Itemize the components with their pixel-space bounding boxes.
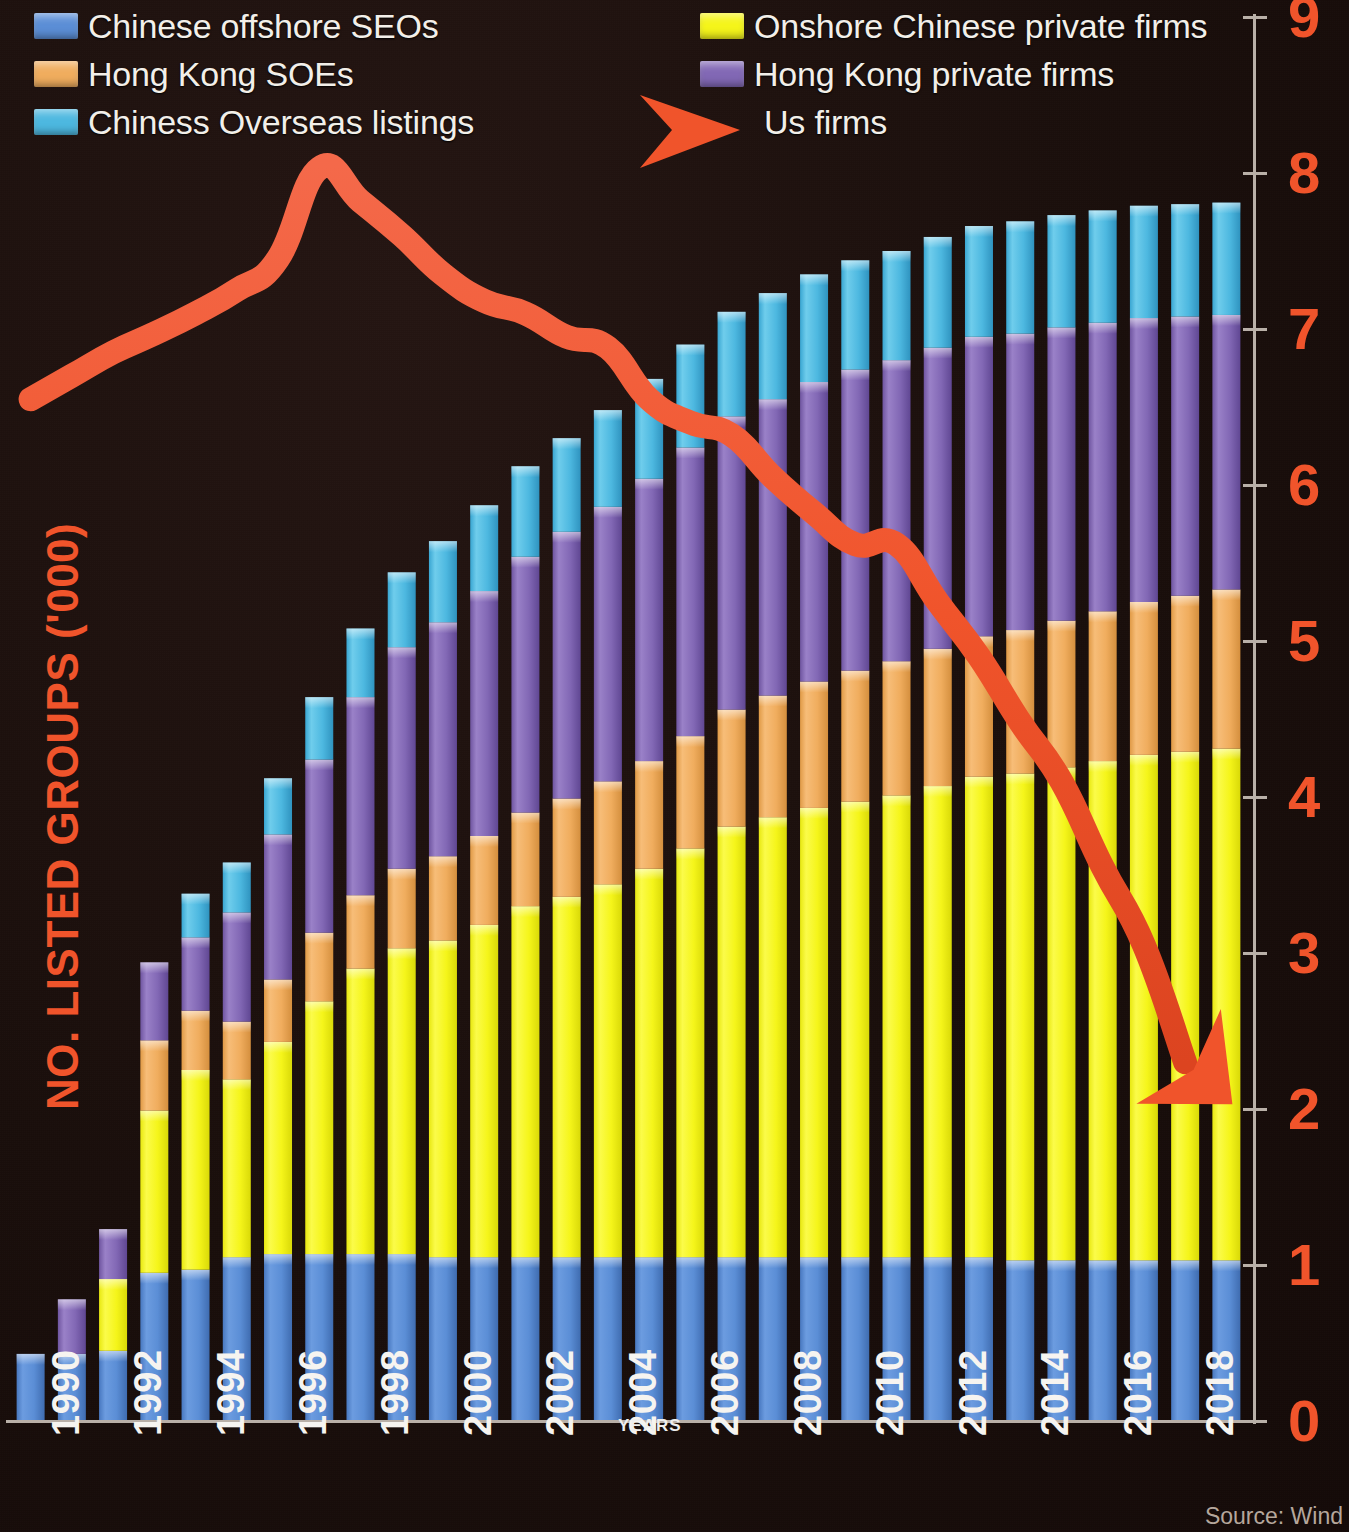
legend-item-overseas: Chiness Overseas listings [34, 98, 474, 146]
bar-segment-highlight [924, 237, 952, 248]
bar-segment [140, 1111, 168, 1273]
bar-segment-highlight [388, 647, 416, 658]
bar-segment-highlight [676, 736, 704, 747]
bar-segment-highlight [1047, 215, 1075, 226]
bar-segment-highlight [1089, 323, 1117, 334]
bar-segment [924, 786, 952, 1257]
bar-segment [553, 532, 581, 799]
bar-segment-highlight [759, 399, 787, 410]
bar-segment [1212, 749, 1240, 1261]
bar-segment [676, 1257, 704, 1421]
bar-segment [1171, 1260, 1199, 1421]
bar-2001 [470, 505, 498, 1421]
plot-area [0, 0, 1349, 1532]
bar-segment [759, 1257, 787, 1421]
bar-segment-highlight [635, 479, 663, 490]
bar-1998 [346, 629, 374, 1421]
y-tick-label-6: 6 [1288, 456, 1320, 514]
bar-2003 [553, 438, 581, 1421]
bar-segment [841, 802, 869, 1258]
bar-segment-highlight [1171, 596, 1199, 607]
bar-segment [1047, 767, 1075, 1260]
bar-segment [553, 897, 581, 1257]
bar-segment-highlight [1130, 1260, 1158, 1271]
x-tick-label-1994: 1994 [212, 1349, 250, 1436]
bar-segment [140, 962, 168, 1040]
bar-segment-highlight [759, 817, 787, 828]
bar-segment [470, 925, 498, 1257]
bar-segment [511, 813, 539, 907]
bar-segment-highlight [676, 848, 704, 859]
bar-segment-highlight [1089, 1260, 1117, 1271]
legend-label-hk_soe: Hong Kong SOEs [88, 57, 354, 91]
bar-segment-highlight [718, 710, 746, 721]
bar-segment-highlight [1212, 203, 1240, 214]
bar-segment [264, 834, 292, 979]
bar-segment [594, 410, 622, 507]
bar-segment-highlight [924, 1257, 952, 1268]
bar-segment [676, 448, 704, 737]
bar-segment-highlight [140, 1111, 168, 1122]
bar-segment-highlight [676, 345, 704, 356]
bar-segment [841, 671, 869, 802]
bar-2010 [841, 260, 869, 1421]
bar-segment [388, 948, 416, 1254]
y-tick-6 [1243, 484, 1267, 487]
bar-segment-highlight [429, 1257, 457, 1268]
bar-segment-highlight [1047, 1260, 1075, 1271]
bar-segment-highlight [800, 808, 828, 819]
bar-segment [182, 1070, 210, 1270]
bar-segment-highlight [1006, 774, 1034, 785]
bar-segment [223, 1079, 251, 1257]
bar-segment [429, 622, 457, 856]
legend-item-us_firms: Us firms [700, 98, 1207, 146]
bar-segment-highlight [841, 671, 869, 682]
bar-segment [223, 912, 251, 1021]
bar-segment-highlight [346, 969, 374, 980]
bar-segment [1171, 204, 1199, 316]
bar-segment-highlight [965, 777, 993, 788]
bar-1994 [182, 894, 210, 1421]
x-tick-label-2018: 2018 [1201, 1349, 1239, 1436]
bar-segment-highlight [182, 1011, 210, 1022]
bar-segment [635, 479, 663, 761]
x-tick-label-1990: 1990 [47, 1349, 85, 1436]
bar-segment-highlight [635, 761, 663, 772]
legend-item-onshore_priv: Onshore Chinese private firms [700, 2, 1207, 50]
bar-segment [1089, 1260, 1117, 1421]
bar-segment [470, 591, 498, 836]
y-tick-3 [1243, 952, 1267, 955]
bar-2012 [924, 237, 952, 1421]
bar-segment-highlight [1089, 611, 1117, 622]
bar-segment [883, 251, 911, 360]
bar-segment [965, 777, 993, 1257]
bar-segment-highlight [511, 906, 539, 917]
legend-column-left: Chinese offshore SEOsHong Kong SOEsChine… [34, 2, 474, 146]
bar-segment-highlight [1212, 590, 1240, 601]
source-note: Source: Wind [1205, 1503, 1343, 1530]
bar-segment-highlight [264, 980, 292, 991]
x-tick-label-2016: 2016 [1119, 1349, 1157, 1436]
bar-segment [635, 761, 663, 869]
bar-segment-highlight [346, 895, 374, 906]
bar-segment-highlight [594, 1257, 622, 1268]
bar-2016 [1089, 210, 1117, 1421]
bar-segment [965, 337, 993, 637]
bar-segment-highlight [264, 1042, 292, 1053]
bar-2011 [883, 251, 911, 1421]
bar-segment [511, 1257, 539, 1421]
bar-2009 [800, 274, 828, 1421]
bar-segment [511, 906, 539, 1257]
bar-segment-highlight [553, 897, 581, 908]
bar-segment-highlight [99, 1229, 127, 1240]
bar-segment [594, 884, 622, 1257]
bar-segment-highlight [511, 466, 539, 477]
bar-segment-highlight [470, 591, 498, 602]
bar-segment-highlight [883, 360, 911, 371]
bar-2018 [1171, 204, 1199, 1421]
bar-segment [264, 1254, 292, 1421]
bar-segment [470, 505, 498, 591]
bar-2006 [676, 345, 704, 1421]
bar-segment-highlight [388, 572, 416, 583]
bar-segment-highlight [883, 251, 911, 262]
